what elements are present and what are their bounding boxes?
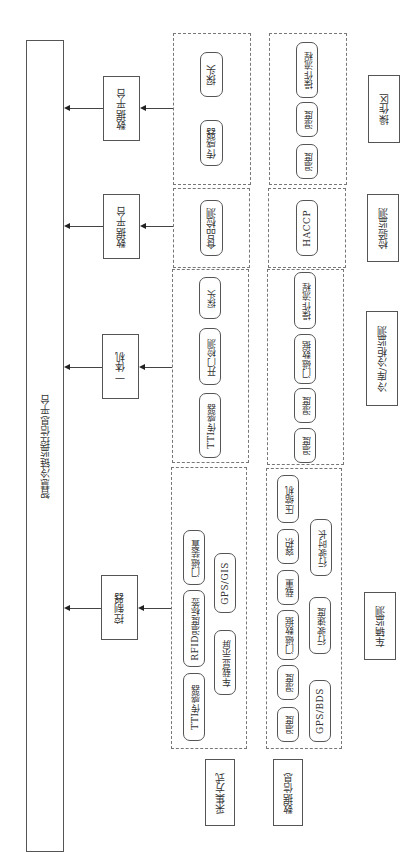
arrowhead-icon <box>140 223 146 229</box>
row-label-data-info: 数据信息 <box>273 759 303 826</box>
pill-temperature: 温度 <box>296 144 318 179</box>
pill-gps-gis: GPS/GIS <box>214 553 236 613</box>
label-text: 冷库/冷柜监测 <box>375 325 390 392</box>
pill-door-data-cold: 门磁数据 <box>294 334 316 384</box>
category-coldstore: 冷库/冷柜监测 <box>366 311 398 406</box>
device-box-all-in-one: 一体机 <box>102 334 139 399</box>
pill-haccp: HACCP <box>296 200 318 256</box>
label-text: 湿度 <box>299 396 312 415</box>
arrow-line <box>70 608 101 609</box>
label-text: 门磁数据 <box>299 340 312 378</box>
label-text: GPS/BDS <box>315 688 325 734</box>
label-text: 温度 <box>299 436 312 455</box>
label-text: GPS/GIS <box>220 562 230 605</box>
label-text: 操作区 <box>377 93 392 125</box>
pill-door-data-vehicle: 门磁数据 <box>277 610 299 660</box>
pill-driving-speed: 行驶速度 <box>309 597 331 654</box>
pill-volume: 容积 <box>277 529 299 564</box>
label-text: 湿度 <box>282 673 295 692</box>
label-text: 传感器 <box>204 127 219 159</box>
label-text: 检验监测 <box>376 207 391 249</box>
label-text: 控制器 <box>112 592 127 624</box>
pill-load-weight: 载重 <box>277 570 299 605</box>
row-label-collection-method: 采集方式 <box>205 759 235 826</box>
label-text: 车载显示屏 <box>219 639 232 687</box>
label-text: 操作流程 <box>299 282 312 320</box>
pill-door-sensor-device: 门磁装置 <box>183 530 205 585</box>
device-box-data-platform-1: 数据平台 <box>103 76 140 141</box>
arrowhead-icon <box>64 605 70 611</box>
pill-operation-flow-cold: 操作流程 <box>294 272 316 329</box>
pill-humidity-cold: 湿度 <box>294 388 316 423</box>
pill-tti-sensor-vehicle: TTI传感器 <box>183 673 205 741</box>
arrow-line <box>70 226 103 227</box>
pill-probe-2: 探头 <box>199 277 221 319</box>
pill-operation-flow: 操作流程 <box>296 42 318 98</box>
label-text: 温度 <box>282 715 295 734</box>
label-text: 探头 <box>204 289 217 308</box>
pill-vehicle-display: 车载显示屏 <box>214 630 236 695</box>
label-text: 食品检测 <box>204 207 219 249</box>
arrow-line <box>70 367 102 368</box>
pill-temperature-cold: 温度 <box>294 428 316 463</box>
label-text: 数据平台 <box>114 206 129 248</box>
pill-door-open-detect: 开门检测 <box>199 328 221 385</box>
label-text: 探头 <box>204 64 219 85</box>
pill-tti-sensor: TTI传感器 <box>199 393 221 458</box>
arrowhead-icon <box>139 364 145 370</box>
pill-humidity-vehicle: 湿度 <box>277 665 299 700</box>
label-text: 采集方式 <box>213 772 228 814</box>
pill-probe: 探头 <box>200 52 223 97</box>
label-text: 容积 <box>282 537 295 556</box>
arrow-line <box>145 367 172 368</box>
label-text: RFID温度标签 <box>188 597 201 661</box>
label-text: 数据信息 <box>281 772 296 814</box>
label-text: TTI传感器 <box>188 684 201 730</box>
arrow-line <box>146 108 173 109</box>
label-text: 车辆监测 <box>373 605 388 647</box>
platform-label: 智慧冷链监控信息平台 <box>38 394 53 499</box>
label-text: 行驶速度 <box>314 607 327 645</box>
arrow-line <box>144 608 171 609</box>
category-inspection: 检验监测 <box>367 194 399 262</box>
pill-gps-bds: GPS/BDS <box>309 680 331 742</box>
label-text: 行驶时长 <box>315 529 328 567</box>
label-text: 温度 <box>301 152 314 171</box>
label-text: TTI传感器 <box>204 403 217 449</box>
pill-driving-duration: 行驶时长 <box>310 519 332 576</box>
label-text: 开门检测 <box>204 338 217 376</box>
label-text: HACCP <box>302 210 312 247</box>
label-text: 湿度 <box>301 110 314 129</box>
label-text: 一体机 <box>113 351 128 383</box>
device-box-data-platform-2: 数据平台 <box>103 194 140 259</box>
label-text: 门磁装置 <box>188 539 201 577</box>
pill-humidity: 湿度 <box>296 102 318 137</box>
category-vehicle: 车辆监测 <box>364 592 396 660</box>
arrowhead-icon <box>64 223 70 229</box>
device-box-controller: 控制器 <box>101 575 138 640</box>
arrow-line <box>146 226 173 227</box>
label-text: 操作流程 <box>301 51 314 89</box>
pill-temperature-vehicle: 温度 <box>277 707 299 742</box>
label-text: 门磁数据 <box>282 616 295 654</box>
label-text: 载重 <box>282 578 295 597</box>
label-text: 压缩机 <box>282 485 295 514</box>
pill-compressor: 压缩机 <box>277 475 299 523</box>
pill-sensor: 传感器 <box>200 120 223 166</box>
pill-rfid-temp-tag: RFID温度标签 <box>183 590 205 667</box>
label-text: 数据平台 <box>114 88 129 130</box>
pill-food-test: 食品检测 <box>200 200 223 256</box>
arrow-line <box>70 108 103 109</box>
category-operation-area: 操作区 <box>368 75 400 143</box>
arrowhead-icon <box>64 364 70 370</box>
arrowhead-icon <box>64 105 70 111</box>
platform-box-body: 智慧冷链监控信息平台 <box>26 40 64 852</box>
arrowhead-icon <box>138 605 144 611</box>
arrowhead-icon <box>140 105 146 111</box>
